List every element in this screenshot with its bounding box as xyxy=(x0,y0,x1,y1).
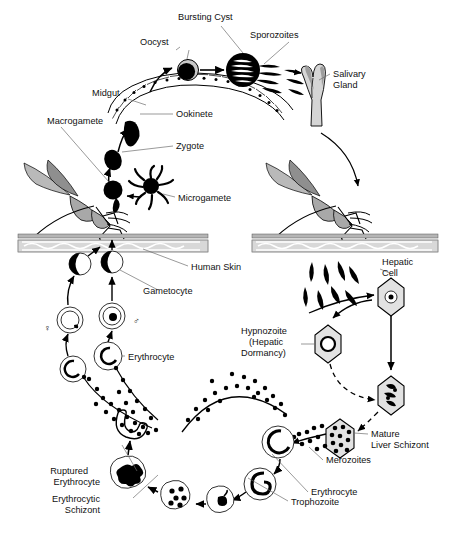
label-erythrocyte-right: Erythrocyte xyxy=(311,487,357,497)
erythrocyte-left-ring xyxy=(94,342,122,370)
label-hypnozoite-line2: (Hepatic xyxy=(249,337,284,347)
label-merozoites: Merozoites xyxy=(326,455,371,465)
label-microgamete: Microgamete xyxy=(178,193,231,203)
label-sporozoites: Sporozoites xyxy=(250,30,299,40)
label-salivary-gland-line2: Gland xyxy=(333,80,358,90)
label-hepatic-cell-line2: Cell xyxy=(382,268,398,278)
infected-erythrocyte-male xyxy=(99,303,125,329)
label-hepatic-cell-line1: Hepatic xyxy=(382,257,414,267)
label-erythrocytic-schizont-line1: Erythrocytic xyxy=(52,494,100,504)
label-human-skin: Human Skin xyxy=(191,262,241,272)
growing-trophozoite-shape xyxy=(207,486,234,513)
female-symbol-icon: ♀ xyxy=(44,323,51,333)
label-hypnozoite-line1: Hypnozoite xyxy=(241,326,287,336)
diagram-canvas: Bursting Cyst Sporozoites Oocyst Salivar… xyxy=(0,0,453,535)
label-ookinete: Ookinete xyxy=(176,109,213,119)
label-erythrocyte-left: Erythrocyte xyxy=(128,352,174,362)
gametocyte-female xyxy=(69,253,91,275)
label-zygote: Zygote xyxy=(176,141,204,151)
infected-erythrocyte-female xyxy=(57,307,83,333)
gametocyte-male xyxy=(101,251,123,273)
male-symbol-icon: ♂ xyxy=(133,316,140,326)
trophozoite-shape xyxy=(244,468,276,500)
label-midgut: Midgut xyxy=(92,88,120,98)
sporozoite-entry-arrow xyxy=(293,72,301,73)
label-hypnozoite-line3: Dormancy) xyxy=(241,348,286,358)
label-trophozoite: Trophozoite xyxy=(291,497,339,507)
human-skin-right xyxy=(252,234,438,252)
label-ruptured-erythrocyte-line2: Erythrocyte xyxy=(54,477,100,487)
label-bursting-cyst: Bursting Cyst xyxy=(178,12,233,22)
microgamete-to-macrogamete-arrow xyxy=(127,196,140,197)
label-ruptured-erythrocyte-line1: Ruptured xyxy=(50,466,88,476)
label-salivary-gland-line1: Salivary xyxy=(333,69,366,79)
label-mature-liver-schizont-line1: Mature xyxy=(371,429,400,439)
human-skin-left xyxy=(18,234,208,252)
erythrocytic-schizont-shape xyxy=(110,456,145,488)
erythrocytic-schizont-early-shape xyxy=(161,480,190,509)
label-gametocyte: Gametocyte xyxy=(143,286,193,296)
label-macrogamete: Macrogamete xyxy=(47,116,103,126)
erythrocyte-right-ring xyxy=(262,426,294,458)
oocyst-shape xyxy=(178,60,199,81)
label-oocyst: Oocyst xyxy=(140,37,169,47)
label-erythrocytic-schizont-line2: Schizont xyxy=(65,505,101,515)
erythrocyte-left-ring-2 xyxy=(60,356,86,382)
malaria-life-cycle-diagram: Bursting Cyst Sporozoites Oocyst Salivar… xyxy=(0,0,453,535)
label-mature-liver-schizont-line2: Liver Schizont xyxy=(371,440,429,450)
